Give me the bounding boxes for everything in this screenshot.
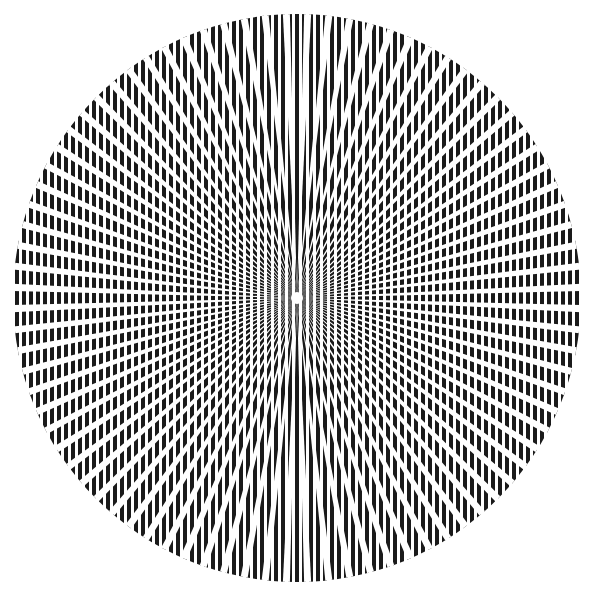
center-dot (291, 292, 303, 304)
moire-pattern-canvas (0, 0, 595, 597)
moire-illusion-figure: Radial moire optical illusion (0, 0, 595, 597)
